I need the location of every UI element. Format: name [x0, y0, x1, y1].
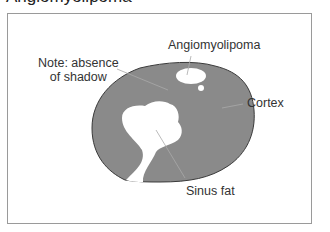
note-label-line1: Note: absence: [38, 56, 119, 70]
kidney-diagram: [0, 0, 330, 232]
note-label-line2: of shadow: [38, 70, 119, 84]
angiomyolipoma-lesion: [176, 68, 206, 84]
angiomyolipoma-label: Angiomyolipoma: [168, 38, 260, 52]
sinus-fat-label: Sinus fat: [186, 184, 235, 198]
angiomyolipoma-small-lesion: [198, 85, 204, 91]
cortex-label: Cortex: [247, 96, 284, 110]
note-label: Note: absence of shadow: [38, 56, 119, 84]
